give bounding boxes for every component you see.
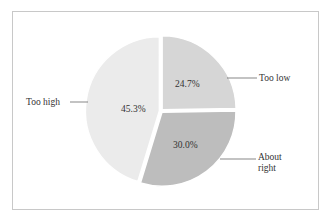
label-about-right-line1: About — [258, 152, 282, 162]
label-about-right-line2: right — [258, 163, 276, 173]
slice-too-low — [162, 36, 236, 110]
percent-about-right: 30.0% — [173, 140, 198, 150]
percent-too-high: 45.3% — [121, 104, 146, 114]
percent-too-low: 24.7% — [175, 79, 200, 89]
label-too-low: Too low — [259, 73, 290, 83]
label-too-high: Too high — [26, 97, 60, 107]
pie-chart: Too low About right Too high 24.7% 30.0%… — [0, 0, 335, 223]
